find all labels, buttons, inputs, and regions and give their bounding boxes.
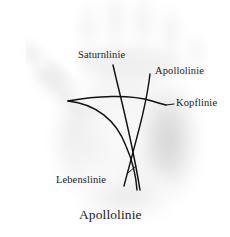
label-saturnlinie: Saturnlinie <box>78 50 125 61</box>
palmistry-figure: Saturnlinie Apollolinie Kopflinie Lebens… <box>0 0 230 237</box>
label-apollolinie: Apollolinie <box>155 66 204 77</box>
leader-kopflinie <box>166 104 174 105</box>
palm-line-overlay <box>0 0 230 237</box>
palm-line-saturnlinie <box>113 65 140 190</box>
label-lebenslinie: Lebenslinie <box>56 175 106 186</box>
figure-caption: Apollolinie <box>79 208 142 222</box>
label-kopflinie: Kopflinie <box>176 98 217 109</box>
